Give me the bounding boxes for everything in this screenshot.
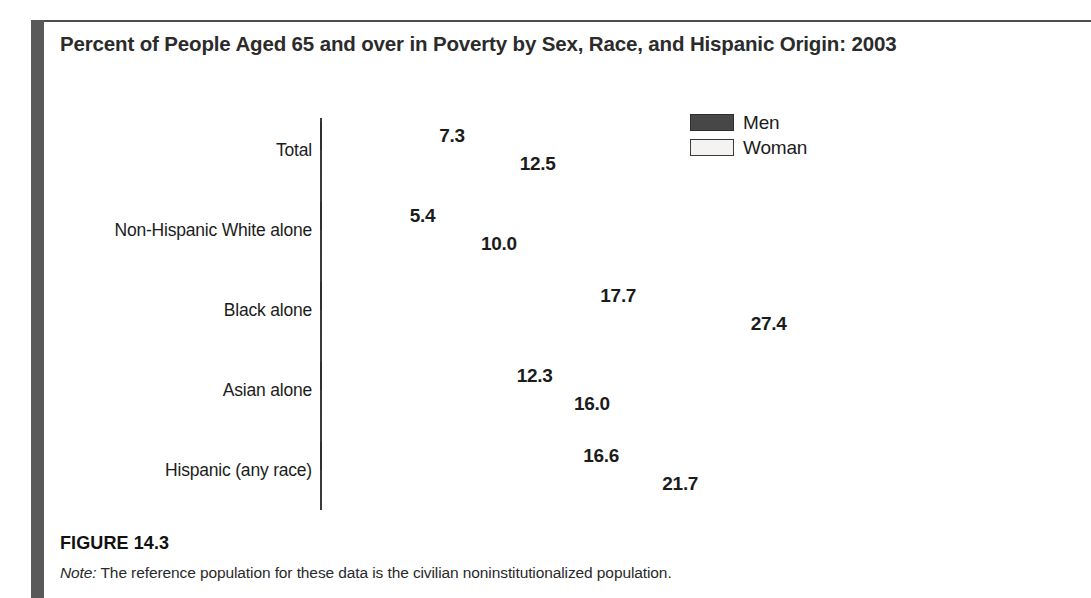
legend-label: Woman <box>743 137 807 159</box>
bar-value-label: 16.0 <box>574 393 610 415</box>
bar-value-label: 16.6 <box>583 445 619 467</box>
bar-fill <box>320 442 322 470</box>
bar-fill <box>320 362 322 390</box>
category-label-wrap: Black alone <box>0 300 312 320</box>
figure-page: Percent of People Aged 65 and over in Po… <box>0 0 1091 598</box>
category-label-wrap: Non-Hispanic White alone <box>0 220 312 240</box>
bar-woman: 27.4 <box>320 310 745 338</box>
legend-label: Men <box>743 112 779 134</box>
category-label: Asian alone <box>223 380 312 401</box>
bar-men: 16.6 <box>320 442 577 470</box>
legend-item-men: Men <box>690 110 807 135</box>
bar-value-label: 5.4 <box>410 205 436 227</box>
bar-fill <box>320 230 322 258</box>
bar-men: 5.4 <box>320 202 404 230</box>
bar-value-label: 12.5 <box>520 153 556 175</box>
bar-men: 7.3 <box>320 122 433 150</box>
category-label: Non-Hispanic White alone <box>114 220 312 241</box>
bar-fill <box>320 470 322 498</box>
bar-fill <box>320 310 322 338</box>
category-label-wrap: Asian alone <box>0 380 312 400</box>
category-label-wrap: Total <box>0 140 312 160</box>
bar-fill <box>320 150 322 178</box>
figure-note-text: The reference population for these data … <box>97 564 672 581</box>
figure-note-lead: Note: <box>60 564 97 581</box>
legend-swatch-icon <box>690 114 734 131</box>
category-label-wrap: Hispanic (any race) <box>0 460 312 480</box>
bar-men: 17.7 <box>320 282 594 310</box>
figure-note: Note: The reference population for these… <box>60 564 672 582</box>
bar-value-label: 7.3 <box>439 125 465 147</box>
bar-woman: 10.0 <box>320 230 475 258</box>
bar-value-label: 21.7 <box>662 473 698 495</box>
bar-woman: 16.0 <box>320 390 568 418</box>
legend-swatch-icon <box>690 139 734 156</box>
bar-fill <box>320 390 322 418</box>
bar-value-label: 27.4 <box>751 313 787 335</box>
chart-legend: MenWoman <box>690 110 807 160</box>
category-label: Total <box>276 140 312 161</box>
bar-chart-plot: 7.312.5Total5.410.0Non-Hispanic White al… <box>0 0 1091 598</box>
bar-fill <box>320 282 322 310</box>
legend-item-woman: Woman <box>690 135 807 160</box>
bar-value-label: 10.0 <box>481 233 517 255</box>
bar-woman: 21.7 <box>320 470 656 498</box>
bar-men: 12.3 <box>320 362 511 390</box>
bar-value-label: 17.7 <box>600 285 636 307</box>
bar-fill <box>320 122 322 150</box>
bar-fill <box>320 202 322 230</box>
bar-woman: 12.5 <box>320 150 514 178</box>
category-label: Black alone <box>224 300 312 321</box>
bar-value-label: 12.3 <box>517 365 553 387</box>
category-label: Hispanic (any race) <box>165 460 312 481</box>
figure-number: FIGURE 14.3 <box>60 533 169 554</box>
